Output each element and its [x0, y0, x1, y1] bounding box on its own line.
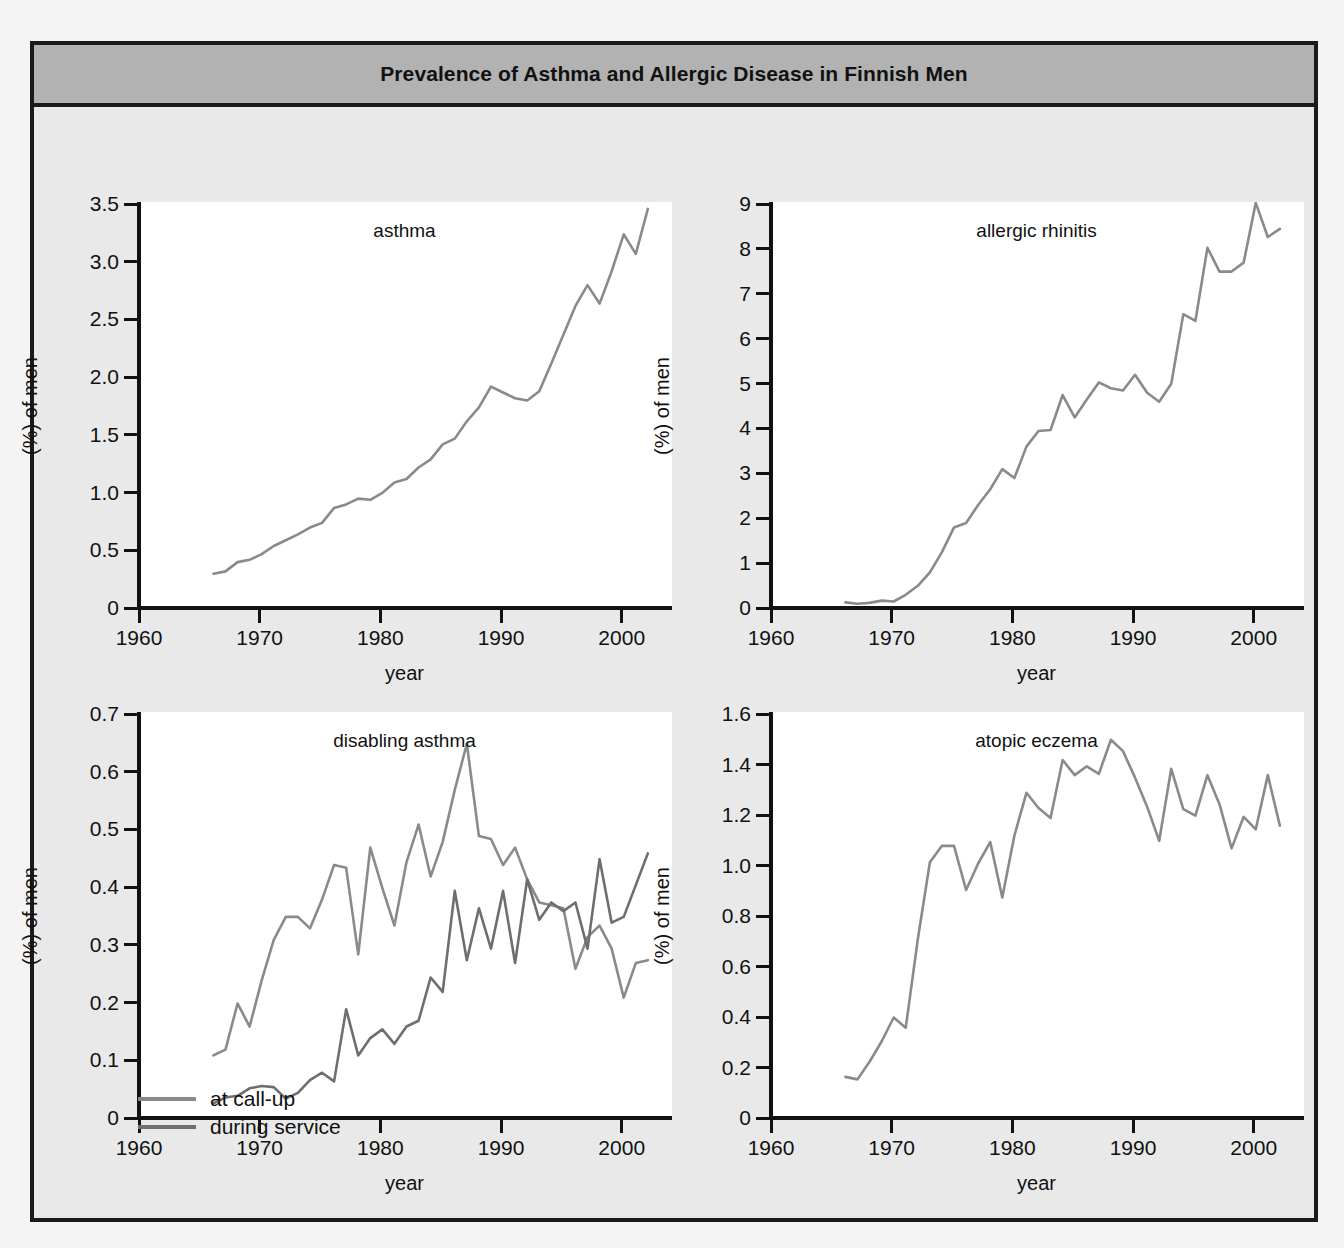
- y-tick-label: 1.0: [681, 854, 751, 878]
- x-tick-mark: [890, 1120, 893, 1133]
- legend-item: during service: [138, 1113, 341, 1141]
- legend-line-swatch: [138, 1097, 196, 1101]
- panel-title: atopic eczema: [975, 730, 1098, 752]
- x-tick-label: 1990: [1110, 1136, 1157, 1160]
- y-tick-label: 1.4: [681, 753, 751, 777]
- x-tick-mark: [1011, 1120, 1014, 1133]
- x-tick-label: 2000: [1230, 1136, 1277, 1160]
- y-tick-label: 1.2: [681, 803, 751, 827]
- page-title: Prevalence of Asthma and Allergic Diseas…: [380, 62, 968, 86]
- y-tick-mark: [756, 763, 769, 766]
- y-tick-label: 0.6: [681, 955, 751, 979]
- y-axis-label: (%) of men: [651, 712, 677, 1120]
- panel-atopic-eczema: atopic eczema00.20.40.60.81.01.21.41.619…: [34, 107, 1314, 1222]
- y-tick-mark: [756, 814, 769, 817]
- x-tick-label: 1970: [868, 1136, 915, 1160]
- x-tick-mark: [1252, 1120, 1255, 1133]
- y-tick-label: 0.2: [681, 1056, 751, 1080]
- x-tick-mark: [1132, 1120, 1135, 1133]
- series-line-at-call-up: [845, 740, 1279, 1080]
- y-tick-label: 0.8: [681, 904, 751, 928]
- figure-root: Prevalence of Asthma and Allergic Diseas…: [0, 0, 1344, 1248]
- y-tick-label: 0: [681, 1106, 751, 1130]
- chart-legend: at call-upduring service: [138, 1085, 341, 1141]
- y-tick-mark: [756, 915, 769, 918]
- x-tick-mark: [770, 1120, 773, 1133]
- x-axis-label: year: [1017, 1172, 1056, 1195]
- legend-label: during service: [210, 1115, 341, 1139]
- y-tick-mark: [756, 1016, 769, 1019]
- y-tick-mark: [756, 864, 769, 867]
- panel-grid: asthma00.51.01.52.02.53.03.5196019701980…: [34, 107, 1314, 1222]
- legend-line-swatch: [138, 1125, 196, 1129]
- figure-title-bar: Prevalence of Asthma and Allergic Diseas…: [34, 45, 1314, 107]
- figure-frame: Prevalence of Asthma and Allergic Diseas…: [30, 41, 1318, 1222]
- legend-item: at call-up: [138, 1085, 341, 1113]
- y-tick-mark: [756, 965, 769, 968]
- y-tick-mark: [756, 1117, 769, 1120]
- legend-label: at call-up: [210, 1087, 295, 1111]
- plot-area: [769, 712, 1304, 1120]
- y-tick-label: 1.6: [681, 702, 751, 726]
- series-canvas: [773, 712, 1304, 1116]
- y-tick-label: 0.4: [681, 1005, 751, 1029]
- x-tick-label: 1960: [748, 1136, 795, 1160]
- x-tick-label: 1980: [989, 1136, 1036, 1160]
- y-tick-mark: [756, 1066, 769, 1069]
- y-tick-mark: [756, 713, 769, 716]
